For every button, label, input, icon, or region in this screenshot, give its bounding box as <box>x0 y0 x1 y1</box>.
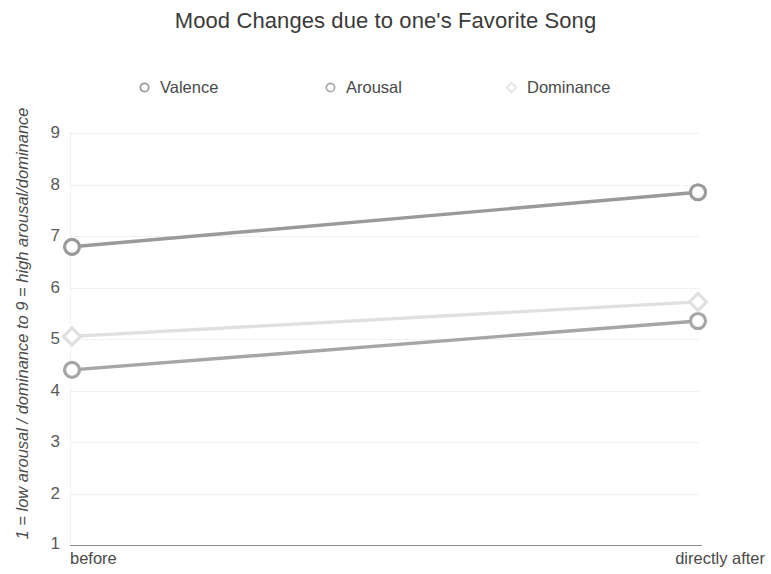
legend-item-arousal[interactable]: Arousal <box>324 74 402 100</box>
grid-line <box>70 494 700 495</box>
arousal-legend-marker-icon <box>324 81 337 94</box>
legend-label-valence: Valence <box>160 78 218 97</box>
y-tick-label: 3 <box>20 432 60 452</box>
dominance-legend-marker-icon <box>505 81 518 94</box>
y-tick-label: 8 <box>20 175 60 195</box>
x-tick-label-before: before <box>70 549 117 568</box>
y-tick-label: 7 <box>20 226 60 246</box>
plot-area <box>70 120 700 545</box>
x-tick-label-directly-after: directly after <box>675 549 765 568</box>
grid-line <box>70 133 700 134</box>
y-tick-label: 4 <box>20 381 60 401</box>
grid-line <box>70 236 700 237</box>
valence-legend-marker-icon <box>138 81 151 94</box>
legend-item-valence[interactable]: Valence <box>138 74 218 100</box>
legend-label-arousal: Arousal <box>346 78 402 97</box>
legend-label-dominance: Dominance <box>527 78 610 97</box>
legend-item-dominance[interactable]: Dominance <box>505 74 610 100</box>
chart-legend: Valence Arousal Dominance <box>130 74 650 100</box>
grid-line <box>70 339 700 340</box>
y-tick-label: 1 <box>20 534 60 554</box>
grid-line <box>70 185 700 186</box>
chart-title: Mood Changes due to one's Favorite Song <box>0 8 771 34</box>
chart-figure: Mood Changes due to one's Favorite Song … <box>0 0 771 574</box>
grid-line <box>70 288 700 289</box>
grid-line <box>70 391 700 392</box>
y-tick-label: 9 <box>20 123 60 143</box>
y-axis-tick-labels: 9 8 7 6 5 4 3 2 1 <box>14 0 60 574</box>
y-tick-label: 2 <box>20 484 60 504</box>
x-axis-line <box>70 545 702 546</box>
y-tick-label: 5 <box>20 329 60 349</box>
y-tick-label: 6 <box>20 278 60 298</box>
grid-line <box>70 442 700 443</box>
y-axis-line <box>70 131 71 546</box>
